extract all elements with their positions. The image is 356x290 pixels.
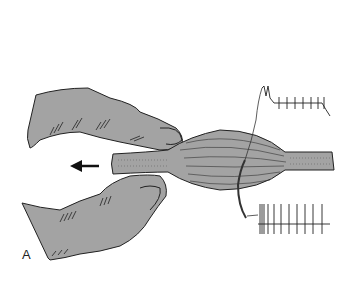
- arrow-left-icon: [70, 160, 99, 172]
- panel-label: A: [22, 247, 31, 262]
- lower-trace: [258, 204, 330, 234]
- figure-illustration: [0, 0, 356, 290]
- upper-finger: [27, 88, 182, 150]
- upper-trace: [262, 86, 330, 116]
- lower-finger: [22, 175, 166, 260]
